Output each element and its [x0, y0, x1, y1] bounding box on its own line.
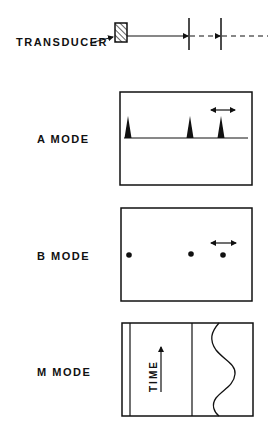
a-mode-panel	[120, 92, 252, 185]
m-mode-screen	[122, 323, 253, 416]
echo-peak-1	[125, 116, 132, 138]
time-label: TIME	[148, 360, 159, 392]
b-mode-panel	[121, 208, 252, 301]
m-mode-panel: TIME	[122, 323, 253, 416]
transducer-pointer-arrow	[90, 37, 113, 43]
m-mode-wave-trace	[212, 323, 235, 416]
echo-dot-1	[126, 252, 132, 258]
echo-peak-3	[218, 116, 225, 138]
echo-dot-2	[188, 251, 194, 257]
transducer-beam-group	[90, 18, 268, 50]
b-mode-screen	[121, 208, 252, 301]
echo-dot-3	[220, 252, 226, 258]
ultrasound-modes-diagram: TIME	[0, 0, 270, 423]
echo-peak-2	[187, 116, 194, 138]
transducer-icon	[115, 23, 127, 42]
